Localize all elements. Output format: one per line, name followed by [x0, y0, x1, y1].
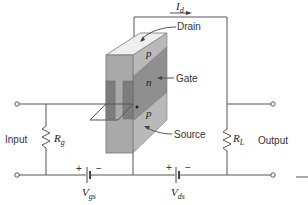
input-bottom-terminal[interactable] — [15, 173, 19, 177]
gate-contact-left — [106, 81, 115, 119]
id-arrowhead-icon — [186, 11, 192, 15]
vgs-plus: + — [76, 163, 82, 174]
output-top-terminal[interactable] — [271, 102, 275, 106]
region-p-bottom: p — [145, 107, 152, 119]
gate-label: Gate — [176, 73, 198, 84]
vds-label: Vds — [171, 186, 185, 201]
input-label: Input — [5, 134, 27, 145]
rg-resistor-icon — [42, 126, 50, 148]
rl-label: RL — [232, 132, 245, 147]
rl-resistor-icon — [223, 129, 231, 151]
channel-dot — [136, 106, 139, 109]
rg-label: Rg — [53, 132, 65, 147]
jfet-circuit-diagram: Id p n p Rg Input + − Vgs + − Vds — [0, 0, 308, 205]
drain-label: Drain — [177, 21, 201, 32]
source-label: Source — [174, 129, 206, 140]
vgs-label: Vgs — [82, 186, 96, 201]
input-top-terminal[interactable] — [15, 102, 19, 106]
region-n-middle: n — [146, 76, 152, 88]
output-label: Output — [258, 135, 288, 146]
output-bottom-terminal[interactable] — [271, 173, 275, 177]
vds-plus: + — [166, 162, 172, 173]
region-p-top: p — [145, 47, 152, 59]
vgs-minus: − — [96, 163, 102, 174]
vds-minus: − — [185, 162, 191, 173]
